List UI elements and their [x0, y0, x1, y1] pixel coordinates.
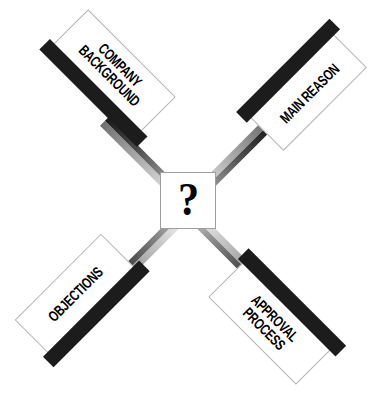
arm-company-background[interactable]: COMPANY BACKGROUND — [44, 9, 176, 141]
center-hub[interactable]: ? — [160, 172, 216, 229]
arm-approval-process[interactable]: APPROVAL PROCESS — [208, 253, 340, 385]
question-mark-icon: ? — [177, 177, 198, 223]
arm-main-reason[interactable]: MAIN REASON — [241, 25, 367, 151]
diagram-canvas: COMPANY BACKGROUND MAIN REASON OBJECTION… — [0, 0, 369, 411]
arm-objections[interactable]: OBJECTIONS — [15, 234, 144, 363]
